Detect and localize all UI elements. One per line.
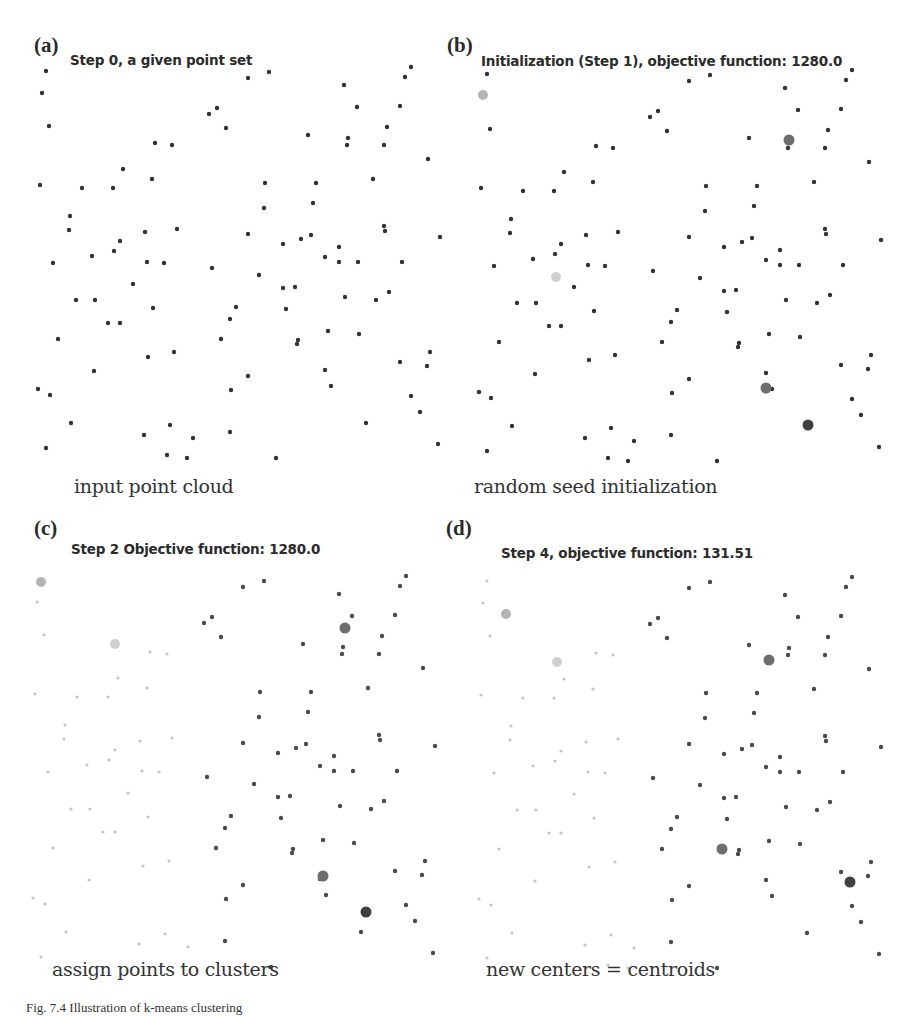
panel-caption: input point cloud [74,475,233,497]
data-point [229,814,233,818]
data-point [752,711,756,715]
data-point [191,436,195,440]
data-point [747,136,751,140]
data-point [314,181,318,185]
data-point [687,884,691,888]
data-point [626,459,630,463]
data-point [477,897,480,900]
data-point [186,945,189,948]
data-point [609,426,613,430]
data-point [669,433,673,437]
data-point [48,393,52,397]
data-point [167,859,170,862]
data-point [281,286,285,290]
data-point [632,439,636,443]
data-point [670,898,674,902]
data-point [509,217,513,221]
data-point [828,800,832,804]
data-point [385,125,389,129]
data-point [295,342,299,346]
data-point [877,445,881,449]
data-point [321,838,325,842]
data-point [584,740,587,743]
data-point [309,690,313,694]
data-point [715,966,719,970]
data-point [140,769,143,772]
data-point [142,433,146,437]
panel-letter: (d) [446,516,472,541]
data-point [510,424,514,428]
data-point [761,383,772,394]
data-point [35,600,38,603]
data-point [725,310,729,314]
data-point [784,135,795,146]
data-point [329,384,333,388]
data-point [812,687,816,691]
data-point [562,170,566,174]
data-point [246,76,250,80]
data-point [111,186,115,190]
data-point [175,227,179,231]
panel-caption: assign points to clusters [52,958,279,980]
data-point [485,72,489,76]
data-point [675,815,679,819]
data-point [33,692,36,695]
data-point [101,830,104,833]
data-point [651,776,655,780]
data-point [591,180,595,184]
data-point [859,920,863,924]
data-point [168,423,172,427]
data-point [346,136,350,140]
data-point [257,273,261,277]
data-point [426,157,430,161]
data-point [165,453,169,457]
data-point [366,686,370,690]
data-point [812,180,816,184]
data-point [764,878,768,882]
data-point [478,90,488,100]
data-point [246,374,250,378]
data-point [90,254,94,258]
data-point [824,739,828,743]
data-point [279,816,283,820]
data-point [290,851,294,855]
data-point [704,184,708,188]
data-point [797,770,801,774]
data-point [252,782,256,786]
data-point [433,744,437,748]
data-point [594,651,597,654]
data-point [796,615,800,619]
data-point [215,106,219,110]
data-point [879,745,883,749]
data-point [722,289,726,293]
data-point [562,677,565,680]
data-point [764,371,768,375]
data-point [67,228,71,232]
data-point [276,795,280,799]
data-point [648,115,652,119]
panel-title: Step 0, a given point set [70,52,252,68]
data-point [492,264,496,268]
data-point [46,770,49,773]
data-point [274,456,278,460]
data-point [755,184,759,188]
data-point [497,847,500,850]
data-point [704,691,708,695]
data-point [306,133,310,137]
data-point [337,592,341,596]
data-point [436,442,440,446]
data-point [423,859,427,863]
data-point [131,282,135,286]
data-point [404,903,408,907]
data-point [374,298,378,302]
data-point [552,657,562,667]
data-point [787,646,791,650]
data-point [113,830,116,833]
data-point [734,288,738,292]
data-point [170,143,174,147]
data-point [398,584,402,588]
data-point [616,737,619,740]
data-point [583,436,587,440]
data-point [583,943,586,946]
data-point [767,839,771,843]
